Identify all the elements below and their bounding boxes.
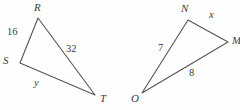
vertex-label-r: R xyxy=(34,2,41,13)
side-label-rs: 16 xyxy=(7,27,18,38)
side-label-st: y xyxy=(34,78,39,89)
side-label-rt: 32 xyxy=(66,44,77,55)
vertex-label-n: N xyxy=(181,3,188,14)
vertex-label-t: T xyxy=(100,93,106,104)
triangle-rst-shape xyxy=(20,18,95,95)
triangle-nmo-shape xyxy=(142,20,228,93)
triangle-nmo-outline xyxy=(142,20,228,93)
side-label-no: 7 xyxy=(158,43,163,54)
side-label-om: 8 xyxy=(189,68,194,79)
vertex-label-m: M xyxy=(232,35,240,46)
geometry-figure: R S T 16 32 y N M O x 7 8 xyxy=(0,0,240,110)
triangles-svg xyxy=(0,0,240,110)
vertex-label-o: O xyxy=(131,93,139,104)
vertex-label-s: S xyxy=(3,55,9,66)
side-label-nm: x xyxy=(209,10,214,21)
triangle-rst-outline xyxy=(20,18,95,95)
